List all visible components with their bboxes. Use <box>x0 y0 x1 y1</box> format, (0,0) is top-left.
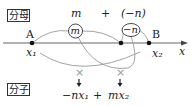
axis-x-label: x <box>179 46 185 57</box>
point-a-dot <box>30 41 35 46</box>
circle-m-text: m <box>71 25 80 36</box>
cross-mark-1: × <box>75 67 84 78</box>
point-b-dot <box>147 41 152 46</box>
x2-label: x₂ <box>152 48 163 59</box>
arc-m-to-p <box>82 31 121 43</box>
result-plus: + <box>93 90 102 101</box>
down-arrow-icon <box>77 79 82 87</box>
numerator-label-box: 分子 <box>7 83 30 96</box>
down-arrow-icon <box>118 79 123 87</box>
cross-mark-2: × <box>116 67 125 78</box>
top-neg-n-label: (−n) <box>121 8 146 19</box>
result-term-2: mx₂ <box>108 90 129 101</box>
point-a-label: A <box>26 29 34 40</box>
x1-label: x₁ <box>26 47 37 58</box>
point-b-label: B <box>152 29 160 40</box>
denominator-label-box: 分母 <box>7 9 30 22</box>
top-m-label: m <box>71 8 81 19</box>
circle-neg-n-text: −n <box>123 24 138 35</box>
division-point-dot <box>119 41 124 46</box>
lower-arc-x1-x2 <box>40 52 140 66</box>
arc-a-to-m <box>32 31 69 44</box>
top-plus-label: + <box>101 8 110 19</box>
result-term-1: −nx₁ <box>62 90 89 101</box>
arc-n-to-b <box>139 30 149 43</box>
